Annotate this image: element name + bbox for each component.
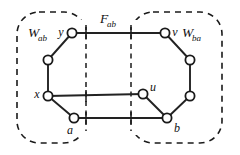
- cut-label-sub: ab: [107, 19, 117, 29]
- vertex-label-v: v: [172, 25, 178, 39]
- right-region-label-sub: ba: [192, 33, 202, 43]
- left-region-label: W ab: [28, 25, 48, 43]
- cut-label: F ab: [99, 11, 117, 29]
- vertex-a: [69, 113, 78, 122]
- vertex-x: [43, 91, 52, 100]
- right-region-label: W ba: [182, 25, 202, 43]
- vertex-label-b: b: [174, 121, 180, 135]
- graph-cut-diagram: y x a u v b W ab W ba F ab: [0, 0, 240, 155]
- vertex-label-a: a: [67, 123, 73, 137]
- vertex-label-u: u: [150, 80, 156, 94]
- vertex-b: [162, 113, 171, 122]
- left-region-label-sub: ab: [38, 33, 48, 43]
- vertex-label-y: y: [57, 25, 64, 39]
- vertex-label-x: x: [33, 87, 40, 101]
- vertex-right-upper: [185, 55, 194, 64]
- vertex-left-upper: [43, 55, 52, 64]
- vertex-u: [138, 89, 147, 98]
- vertex-right-lower: [185, 91, 194, 100]
- vertex-y: [67, 28, 76, 37]
- vertex-v: [160, 28, 169, 37]
